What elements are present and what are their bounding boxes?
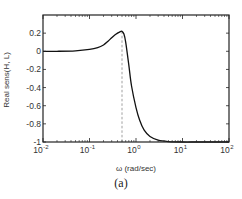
y-axis-ticks: 0.20-0.2-0.4-0.6-0.8-1 <box>26 28 229 147</box>
y-axis-label: Real sens(H, L) <box>2 52 11 108</box>
axes-frame <box>43 15 229 142</box>
data-series-line <box>43 31 229 142</box>
svg-text:101: 101 <box>174 144 188 155</box>
svg-text:100: 100 <box>127 144 141 155</box>
svg-text:102: 102 <box>220 144 234 155</box>
svg-text:-1: -1 <box>33 137 41 147</box>
svg-text:-0.8: -0.8 <box>26 119 41 129</box>
svg-text:0.2: 0.2 <box>29 28 41 38</box>
svg-text:10-1: 10-1 <box>80 144 96 155</box>
svg-text:-0.2: -0.2 <box>26 64 41 74</box>
svg-text:-0.6: -0.6 <box>26 101 41 111</box>
figure-caption: (a) <box>0 176 242 191</box>
x-axis-ticks: 10-210-1100101102 <box>33 15 234 155</box>
sensitivity-chart: 10-210-1100101102 0.20-0.2-0.4-0.6-0.8-1… <box>0 0 242 176</box>
svg-text:0: 0 <box>36 46 41 56</box>
x-axis-label: ω (rad/sec) <box>116 164 156 173</box>
svg-text:-0.4: -0.4 <box>26 83 41 93</box>
